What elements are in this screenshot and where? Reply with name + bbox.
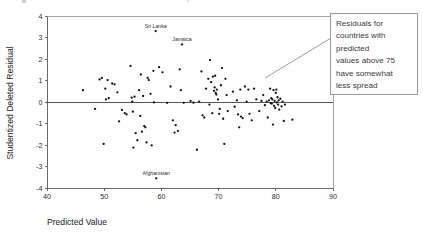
y-tick-label: 4 [39,12,43,21]
data-point [82,89,84,91]
data-point [283,120,285,122]
callout-line: have somewhat [336,69,393,78]
data-point [211,112,213,114]
data-point [210,81,212,83]
data-point [253,88,255,90]
data-point [274,100,276,102]
data-point [245,100,247,102]
data-point [172,119,174,121]
data-point [275,88,277,90]
data-point [208,103,210,105]
data-point [180,89,182,91]
data-point [125,113,127,115]
data-point [145,141,147,143]
data-point [225,94,227,96]
data-point [276,101,278,103]
callout-line: predicted [336,44,369,53]
data-point [177,130,179,132]
data-point [214,75,216,77]
data-point-label: Jamaica [172,36,191,42]
data-point [238,126,240,128]
data-point [279,98,281,100]
data-point [179,68,181,70]
data-point [132,146,134,148]
crop-artifacts [22,0,189,3]
data-point [138,89,140,91]
data-point [274,107,276,109]
data-point [239,88,241,90]
data-point [266,100,268,102]
data-point [258,110,260,112]
data-point [121,109,123,111]
data-point [129,65,131,67]
data-point [94,108,96,110]
data-point [264,104,266,106]
data-point [271,98,273,100]
data-point [148,79,150,81]
data-point [212,75,214,77]
x-tick-label: 80 [272,192,280,201]
data-point [280,105,282,107]
y-tick-label: -3 [36,162,42,171]
data-point [272,89,274,91]
x-tick-label: 50 [100,192,108,201]
callout-line: Residuals for [336,19,384,28]
data-point [268,99,270,101]
data-point [155,30,157,32]
y-tick-label: 3 [39,33,43,42]
data-point [102,143,104,145]
data-point [131,97,133,99]
data-point [278,108,280,110]
data-point [142,95,144,97]
data-point [158,66,160,68]
data-point [133,95,135,97]
data-point [149,93,151,95]
data-point [116,91,118,93]
data-point [267,116,269,118]
data-point [135,132,137,134]
data-point [260,100,262,102]
data-point [273,105,275,107]
callout-leader-line [265,38,331,78]
callout-line: countries with [336,31,385,40]
data-point [236,99,238,101]
data-point [262,94,264,96]
data-point [217,98,219,100]
data-point [141,131,143,133]
x-axis-title: Predicted Value [47,217,107,227]
y-tick-label: -2 [36,141,42,150]
callout-line: values above 75 [336,56,395,65]
data-point [205,88,207,90]
data-point [203,116,205,118]
data-point [166,102,168,104]
data-point [251,119,253,121]
y-tick-label: -4 [36,184,42,193]
data-point [241,117,243,119]
data-point [272,123,274,125]
data-point [271,103,273,105]
data-point [233,106,235,108]
data-point [169,85,171,87]
point-labels-group: Sri LankaJamaicaAfghanistan [143,23,192,176]
data-point [189,100,191,102]
data-point [232,91,234,93]
data-point [255,98,257,100]
data-point [247,88,249,90]
x-tick-label: 40 [43,192,51,201]
data-point [216,88,218,90]
data-point [105,98,107,100]
data-points-group [82,30,294,180]
data-point [291,118,293,120]
data-point [282,100,284,102]
data-point [139,115,141,117]
data-point [113,83,115,85]
data-point [98,78,100,80]
data-point [222,118,224,120]
data-point [151,144,153,146]
data-point [221,67,223,69]
data-point [118,120,120,122]
data-point [215,93,217,95]
chart-canvas: 43210-1-2-3-4405060708090 Sri LankaJamai… [0,0,423,236]
data-point [237,113,239,115]
data-point [136,139,138,141]
